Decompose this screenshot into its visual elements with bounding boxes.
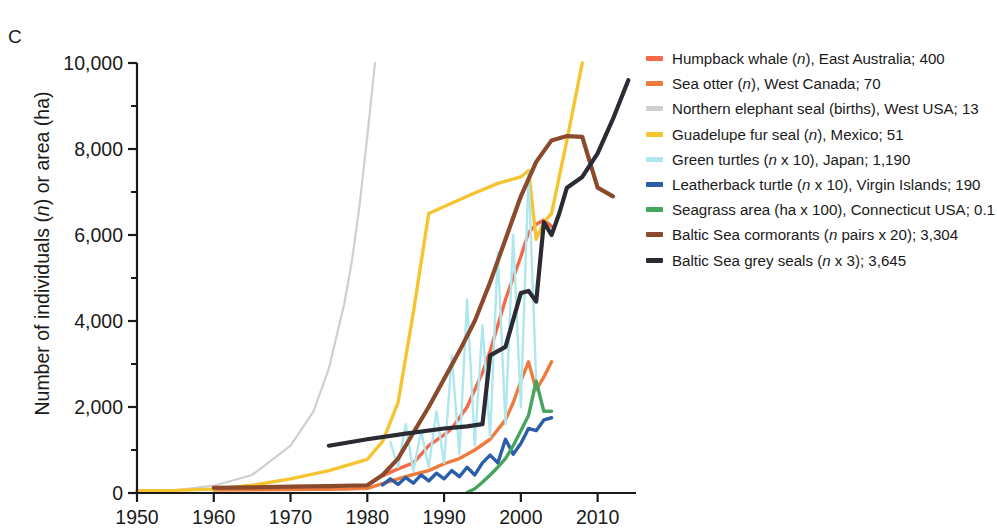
y-tick-label-1: 2,000 (74, 396, 123, 418)
y-tick-label-4: 8,000 (74, 138, 123, 160)
legend-swatch-icon-8 (646, 258, 663, 263)
legend-label-8: Baltic Sea grey seals (n x 3); 3,645 (672, 253, 906, 268)
legend-item-5[interactable]: Leatherback turtle (n x 10), Virgin Isla… (646, 172, 994, 197)
chart-legend: Humpback whale (n), East Australia; 400S… (646, 46, 994, 273)
legend-swatch-icon-6 (646, 207, 663, 212)
x-tick-label-2: 1970 (269, 506, 313, 528)
y-tick-label-5: 10,000 (63, 52, 123, 74)
legend-label-6: Seagrass area (ha x 100), Connecticut US… (672, 202, 995, 217)
legend-item-4[interactable]: Green turtles (n x 10), Japan; 1,190 (646, 147, 994, 172)
x-tick-label-4: 1990 (422, 506, 466, 528)
legend-swatch-icon-5 (646, 182, 663, 187)
legend-item-2[interactable]: Northern elephant seal (births), West US… (646, 96, 994, 121)
x-tick-label-0: 1950 (115, 506, 159, 528)
legend-label-5: Leatherback turtle (n x 10), Virgin Isla… (672, 177, 981, 192)
legend-swatch-icon-0 (646, 56, 663, 61)
legend-label-2: Northern elephant seal (births), West US… (672, 101, 979, 116)
legend-label-1: Sea otter (n), West Canada; 70 (672, 76, 881, 91)
x-tick-label-1: 1960 (192, 506, 236, 528)
legend-label-7: Baltic Sea cormorants (n pairs x 20); 3,… (672, 227, 958, 242)
legend-item-0[interactable]: Humpback whale (n), East Australia; 400 (646, 46, 994, 71)
x-tick-label-3: 1980 (346, 506, 390, 528)
y-tick-label-0: 0 (112, 482, 123, 504)
x-tick-label-6: 2010 (576, 506, 620, 528)
legend-item-7[interactable]: Baltic Sea cormorants (n pairs x 20); 3,… (646, 222, 994, 247)
legend-swatch-icon-3 (646, 132, 663, 137)
y-tick-label-3: 6,000 (74, 224, 123, 246)
legend-item-3[interactable]: Guadelupe fur seal (n), Mexico; 51 (646, 122, 994, 147)
legend-item-1[interactable]: Sea otter (n), West Canada; 70 (646, 71, 994, 96)
chart-plot-area: 02,0004,0006,0008,00010,0001950196019701… (0, 0, 660, 529)
legend-label-0: Humpback whale (n), East Australia; 400 (672, 51, 945, 66)
legend-swatch-icon-1 (646, 81, 663, 86)
y-tick-label-2: 4,000 (74, 310, 123, 332)
legend-item-6[interactable]: Seagrass area (ha x 100), Connecticut US… (646, 197, 994, 222)
legend-swatch-icon-2 (646, 106, 663, 111)
series-layer (137, 63, 628, 493)
series-line-2 (137, 63, 375, 492)
legend-swatch-icon-4 (646, 157, 663, 162)
series-line-6 (467, 381, 551, 492)
legend-label-3: Guadelupe fur seal (n), Mexico; 51 (672, 127, 904, 142)
x-tick-label-5: 2000 (499, 506, 543, 528)
legend-item-8[interactable]: Baltic Sea grey seals (n x 3); 3,645 (646, 248, 994, 273)
legend-swatch-icon-7 (646, 232, 663, 237)
line-chart: 02,0004,0006,0008,00010,0001950196019701… (0, 0, 660, 529)
series-line-1 (214, 362, 552, 490)
legend-label-4: Green turtles (n x 10), Japan; 1,190 (672, 152, 910, 167)
